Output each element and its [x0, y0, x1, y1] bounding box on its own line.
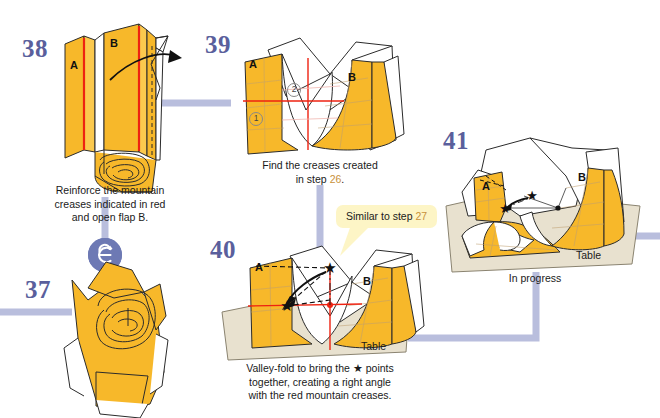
panel-label-a-40: A	[255, 262, 263, 273]
step-39-red-creases	[243, 58, 344, 150]
caption-39-post: .	[341, 173, 344, 185]
caption-39-line-1: Find the creases created	[230, 159, 410, 173]
turn-over-icon	[88, 238, 122, 272]
panel-label-b-41: B	[578, 172, 586, 183]
star-marker-lower-41: ★	[499, 201, 511, 216]
callout-text-pre: Similar to step	[346, 210, 415, 222]
step-number-41: 41	[443, 128, 469, 153]
caption-40-line-2: together, creating a right angle	[215, 376, 425, 390]
caption-39-ref: 26	[330, 173, 342, 185]
step-number-40: 40	[210, 237, 236, 262]
step-41-action-arrow	[502, 198, 528, 212]
panel-label-a-38: A	[70, 60, 78, 71]
caption-40-line-1: Valley-fold to bring the ★ points	[215, 362, 425, 376]
panel-label-a-39: A	[249, 59, 257, 70]
turn-over-glyph	[88, 238, 122, 272]
panel-label-b-40: B	[363, 276, 371, 287]
caption-38-line-3: and open flap B.	[0, 211, 220, 225]
pivot-dot	[555, 205, 560, 210]
diagram-canvas: ★ ★	[0, 0, 660, 418]
panel-label-b-39: B	[348, 72, 356, 83]
step-40-action-arrow	[282, 272, 326, 310]
step-41-table	[446, 192, 640, 272]
caption-step-41: In progress	[470, 272, 600, 286]
callout-step-ref: 27	[415, 210, 427, 222]
step-number-39: 39	[205, 32, 231, 57]
callout-similar-to-step: Similar to step 27	[336, 205, 437, 228]
star-marker-upper-41: ★	[526, 188, 538, 203]
star-marker-lower: ★	[280, 297, 293, 315]
caption-38-line-2: creases indicated in red	[0, 198, 220, 212]
caption-step-38: Reinforce the mountain creases indicated…	[0, 184, 220, 225]
caption-40-line-3: with the red mountain creases.	[215, 389, 425, 403]
caption-39-line-2: in step 26.	[230, 173, 410, 187]
caption-39-pre: in step	[296, 173, 330, 185]
star-marker-upper: ★	[323, 259, 336, 277]
table-label-41: Table	[576, 249, 601, 261]
caption-38-line-1: Reinforce the mountain	[0, 184, 220, 198]
caption-step-40: Valley-fold to bring the ★ points togeth…	[215, 362, 425, 403]
table-label-40: Table	[361, 340, 386, 352]
circled-number-2: 2	[287, 83, 301, 97]
step-38-action-arrow	[110, 50, 182, 80]
panel-label-b-38: B	[110, 38, 118, 49]
caption-41-line-1: In progress	[470, 272, 600, 286]
circled-number-1: 1	[249, 112, 263, 126]
step-40-red-creases	[248, 268, 362, 350]
caption-step-39: Find the creases created in step 26.	[230, 159, 410, 186]
step-number-37: 37	[25, 277, 51, 302]
panel-label-a-41: A	[482, 181, 490, 192]
step-number-38: 38	[22, 36, 48, 61]
